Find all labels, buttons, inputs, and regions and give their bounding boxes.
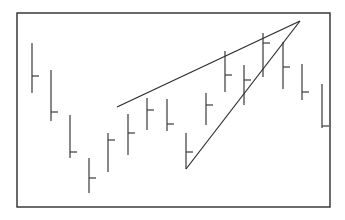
ohlc-chart-canvas (0, 0, 345, 220)
ohlc-chart-figure (0, 0, 345, 220)
chart-background (0, 0, 345, 220)
